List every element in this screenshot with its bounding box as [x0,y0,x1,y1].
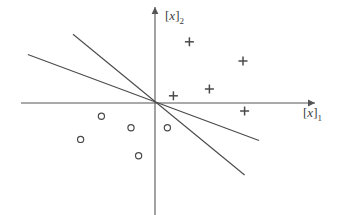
axes-group [21,7,315,215]
scatter-plot-figure: [x]2 [x]1 [0,0,346,215]
y-axis-arrowhead-icon [152,7,159,14]
y-axis-label: [x]2 [165,8,184,26]
x-axis-label-subscript: 1 [317,113,322,123]
plot-canvas [0,0,346,215]
decision-boundary-lines [28,34,259,175]
circle-marker-icon [98,113,104,119]
decision-boundary-steep [73,34,245,175]
plus-marker-icon [239,57,248,66]
plus-marker-icon [205,85,214,94]
circle-marker-icon [164,125,170,131]
plus-marker-icon [169,91,178,100]
y-axis-label-subscript: 2 [179,16,184,26]
decision-boundary-shallow [28,55,259,141]
circle-marker-icon [136,153,142,159]
data-point-markers [78,37,250,159]
plus-marker-icon [240,107,249,116]
circle-marker-icon [128,125,134,131]
x-axis-label: [x]1 [303,105,322,123]
plus-marker-icon [185,37,194,46]
circle-marker-icon [78,136,84,142]
